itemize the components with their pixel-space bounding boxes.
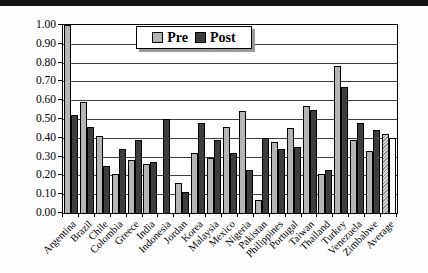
bar-group-taiwan [302,25,318,213]
x-tick-mark [285,213,286,217]
bar-pre-argentina [64,25,71,213]
bar-post-taiwan [310,110,317,213]
bar-pre-venezuela [350,140,357,213]
bar-pre-thailand [318,174,325,213]
bar-pre-pakistan [255,200,262,213]
bar-group-korea [190,25,206,213]
bar-pre-india [143,164,150,213]
y-tick-label: 0.10 [22,188,56,199]
legend-item-pre: Pre [152,31,188,45]
bar-post-malaysia [214,140,221,213]
x-tick-mark [157,213,158,217]
bar-post-brazil [87,127,94,213]
bar-post-chile [103,166,110,213]
bar-post-colombia [119,149,126,213]
legend: Pre Post [136,26,252,49]
x-tick-mark [253,213,254,217]
y-tick-label: 0.50 [22,113,56,124]
correlation-bar-chart-figure: 0.000.100.200.300.400.500.600.700.800.90… [0,0,428,273]
post-swatch-icon [195,32,206,43]
bar-post-pakistan [262,138,269,213]
bar-group-pakistan [254,25,270,213]
y-tick-label: 1.00 [22,19,56,30]
bar-post-average [389,138,396,213]
x-tick-mark [221,213,222,217]
bar-pre-nigeria [239,111,246,213]
bar-group-chile [95,25,111,213]
bar-post-indonesia [163,119,170,213]
bar-post-zimbabwe [373,130,380,213]
x-tick-mark [94,213,95,217]
bar-group-brazil [79,25,95,213]
bar-group-colombia [111,25,127,213]
y-tick-label: 0.60 [22,94,56,105]
bar-group-thailand [318,25,334,213]
bar-pre-chile [96,136,103,213]
bar-pre-brazil [80,102,87,213]
x-tick-mark [126,213,127,217]
bar-group-philippines [270,25,286,213]
bar-pre-mexico [223,127,230,213]
x-tick-mark [237,213,238,217]
bar-pre-colombia [112,174,119,213]
bar-pre-turkey [334,66,341,213]
bar-post-argentina [71,115,78,213]
legend-label-pre: Pre [167,31,188,45]
bar-group-portugal [286,25,302,213]
bar-pre-taiwan [303,106,310,213]
y-tick-label: 0.80 [22,57,56,68]
bar-post-thailand [325,170,332,213]
bar-pre-philippines [271,142,278,213]
x-tick-mark [142,213,143,217]
x-tick-mark [269,213,270,217]
y-tick-label: 0.30 [22,151,56,162]
pre-swatch-icon [152,32,163,43]
bar-group-nigeria [238,25,254,213]
bar-post-turkey [341,87,348,213]
bar-groups [63,25,397,213]
bar-group-malaysia [206,25,222,213]
y-tick-label: 0.70 [22,75,56,86]
y-tick-label: 0.90 [22,38,56,49]
bar-post-greece [135,140,142,213]
x-tick-mark [380,213,381,217]
bar-post-india [150,162,157,213]
bar-group-mexico [222,25,238,213]
bar-pre-jordan [175,183,182,213]
plot-area [62,24,398,214]
bar-post-korea [198,123,205,213]
bar-post-venezuela [357,123,364,213]
x-tick-mark [348,213,349,217]
bar-group-india [143,25,159,213]
bar-group-turkey [333,25,349,213]
bar-post-jordan [182,192,189,213]
bar-group-zimbabwe [365,25,381,213]
x-tick-mark [173,213,174,217]
x-tick-mark [364,213,365,217]
x-tick-mark [110,213,111,217]
legend-label-post: Post [210,31,236,45]
bar-pre-korea [191,153,198,213]
bar-pre-malaysia [207,158,214,213]
bar-group-greece [127,25,143,213]
x-tick-mark [316,213,317,217]
bar-post-nigeria [246,170,253,213]
x-tick-mark [62,213,63,217]
bar-group-average [381,25,397,213]
y-tick-label: 0.40 [22,132,56,143]
x-tick-mark [78,213,79,217]
legend-item-post: Post [195,31,236,45]
bar-group-jordan [174,25,190,213]
x-tick-mark [189,213,190,217]
x-tick-mark [205,213,206,217]
bar-group-venezuela [349,25,365,213]
bar-pre-portugal [287,128,294,213]
y-tick-label: 0.20 [22,169,56,180]
top-rule [0,0,428,6]
x-tick-mark [396,213,397,217]
bar-pre-greece [128,160,135,213]
bar-pre-zimbabwe [366,151,373,213]
bar-pre-average [382,134,389,213]
bar-post-philippines [278,149,285,213]
y-tick-label: 0.00 [22,207,56,218]
